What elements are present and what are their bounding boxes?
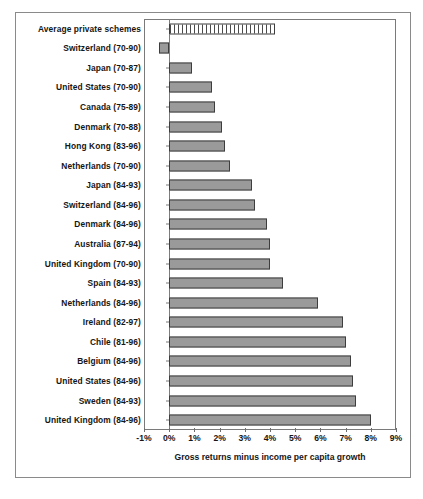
- category-label: United States (70-90): [56, 82, 141, 92]
- bar-row: Canada (75-89): [0, 97, 423, 117]
- bar: [169, 141, 224, 152]
- bar-row: United States (84-96): [0, 371, 423, 391]
- category-label: Netherlands (84-96): [61, 298, 141, 308]
- x-axis-tick-label: 3%: [239, 433, 251, 443]
- category-label: Denmark (84-96): [74, 219, 141, 229]
- x-axis-tick-label: 9%: [390, 433, 402, 443]
- bar: [169, 180, 252, 191]
- bar-row: Sweden (84-93): [0, 391, 423, 411]
- category-label: United Kingdom (84-96): [45, 415, 141, 425]
- category-label: Spain (84-93): [88, 278, 141, 288]
- bar-row: Japan (84-93): [0, 176, 423, 196]
- bar: [169, 395, 355, 406]
- bar: [159, 43, 169, 54]
- x-axis-tick-mark: [396, 428, 397, 432]
- bar-row: Switzerland (70-90): [0, 39, 423, 59]
- bar: [169, 219, 267, 230]
- x-axis-tick-mark: [346, 428, 347, 432]
- bar: [169, 356, 350, 367]
- category-label: Hong Kong (83-96): [65, 141, 141, 151]
- category-label: Australia (87-94): [74, 239, 141, 249]
- x-axis-tick-mark: [270, 428, 271, 432]
- bar-row: United States (70-90): [0, 78, 423, 98]
- x-axis-tick-label: 7%: [339, 433, 351, 443]
- x-axis-tick-label: 1%: [188, 433, 200, 443]
- category-label: Netherlands (70-90): [61, 161, 141, 171]
- bar: [169, 317, 343, 328]
- category-label: Japan (70-87): [86, 63, 141, 73]
- x-axis-tick-mark: [245, 428, 246, 432]
- bar: [169, 376, 353, 387]
- bar-row: Chile (81-96): [0, 332, 423, 352]
- x-axis-tick-mark: [169, 428, 170, 432]
- bar-row: Denmark (70-88): [0, 117, 423, 137]
- bar: [169, 297, 318, 308]
- x-axis-tick-mark: [144, 428, 145, 432]
- category-label: Denmark (70-88): [74, 122, 141, 132]
- category-label: Canada (75-89): [80, 102, 141, 112]
- bar: [169, 82, 212, 93]
- x-axis-tick-mark: [371, 428, 372, 432]
- x-axis-title: Gross returns minus income per capita gr…: [144, 452, 396, 462]
- bar: [169, 102, 214, 113]
- bar-row: Japan (70-87): [0, 58, 423, 78]
- x-axis-tick-label: 2%: [213, 433, 225, 443]
- bar-row: Switzerland (84-96): [0, 195, 423, 215]
- bar-row: Netherlands (70-90): [0, 156, 423, 176]
- x-axis-tick-mark: [320, 428, 321, 432]
- category-label: Switzerland (70-90): [63, 43, 141, 53]
- bar-row: Australia (87-94): [0, 234, 423, 254]
- bar-rows-container: Average private schemesSwitzerland (70-9…: [0, 19, 423, 430]
- category-label: Ireland (82-97): [83, 317, 141, 327]
- category-label: Chile (81-96): [90, 337, 141, 347]
- bar: [169, 160, 229, 171]
- x-axis-tick-mark: [295, 428, 296, 432]
- category-label: Average private schemes: [38, 24, 141, 34]
- bar-row: Denmark (84-96): [0, 215, 423, 235]
- bar: [169, 258, 270, 269]
- bar-row: United Kingdom (84-96): [0, 410, 423, 430]
- category-label: Belgium (84-96): [77, 356, 141, 366]
- bar: [169, 121, 222, 132]
- x-axis-tick-label: 5%: [289, 433, 301, 443]
- category-label: Japan (84-93): [86, 180, 141, 190]
- x-axis-tick-label: 4%: [264, 433, 276, 443]
- x-axis-ticks: -1%0%1%2%3%4%5%6%7%8%9%: [0, 433, 423, 447]
- x-axis-tick-label: 8%: [365, 433, 377, 443]
- bar-row: Netherlands (84-96): [0, 293, 423, 313]
- x-axis-tick-label: -1%: [136, 433, 151, 443]
- bar: [169, 239, 270, 250]
- bar: [169, 278, 282, 289]
- bar-row: Ireland (82-97): [0, 313, 423, 333]
- category-label: Switzerland (84-96): [63, 200, 141, 210]
- x-axis-tick-mark: [194, 428, 195, 432]
- bar-row: Spain (84-93): [0, 273, 423, 293]
- x-axis-tick-label: 6%: [314, 433, 326, 443]
- bar: [169, 336, 345, 347]
- bar: [169, 23, 275, 34]
- bar-row: Hong Kong (83-96): [0, 136, 423, 156]
- bar: [169, 415, 371, 426]
- category-label: United Kingdom (70-90): [45, 259, 141, 269]
- x-axis-tick-mark: [220, 428, 221, 432]
- bar-row: Average private schemes: [0, 19, 423, 39]
- x-axis-tick-label: 0%: [163, 433, 175, 443]
- category-label: Sweden (84-93): [79, 396, 141, 406]
- bar-row: Belgium (84-96): [0, 352, 423, 372]
- bar: [169, 62, 192, 73]
- bar-row: United Kingdom (70-90): [0, 254, 423, 274]
- category-label: United States (84-96): [56, 376, 141, 386]
- bar: [169, 199, 255, 210]
- chart-figure: Average private schemesSwitzerland (70-9…: [0, 0, 423, 499]
